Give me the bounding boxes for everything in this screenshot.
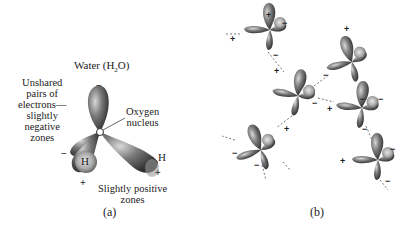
svg-text:−: −: [360, 94, 365, 104]
minus-top: −: [96, 80, 102, 91]
svg-text:−: −: [323, 70, 328, 80]
unshared-pairs-label: Unshared pairs of electrons— slightly ne…: [18, 77, 66, 143]
svg-text:−: −: [273, 50, 278, 60]
water-network-b: +−+ −+− +−+ −−− +−− +−−: [222, 3, 395, 190]
hydrogen-label-left: H: [81, 156, 89, 167]
oxygen-pointer-line: [103, 118, 125, 130]
oxygen-nucleus-label: Oxygen nucleus: [126, 106, 159, 128]
unshared-lobe-top: [88, 86, 109, 132]
svg-text:+: +: [327, 104, 332, 114]
svg-text:+: +: [230, 34, 235, 44]
svg-text:−: −: [282, 18, 287, 28]
slightly-positive-label: Slightly positive zones: [98, 183, 167, 205]
svg-text:−: −: [312, 98, 317, 108]
svg-text:−: −: [390, 144, 395, 154]
caption-a: (a): [103, 205, 116, 220]
plus-left: +: [80, 177, 86, 188]
svg-text:+: +: [284, 124, 289, 134]
svg-text:−: −: [254, 160, 259, 170]
hydrogen-label-right: H: [158, 152, 166, 163]
svg-text:+: +: [274, 66, 279, 76]
water-title: Water (H2O): [74, 60, 129, 76]
plus-right: +: [155, 167, 161, 178]
svg-text:−: −: [385, 176, 390, 186]
svg-text:−: −: [362, 124, 367, 134]
svg-text:+: +: [340, 156, 345, 166]
minus-left: −: [61, 148, 67, 159]
caption-b: (b): [310, 205, 324, 220]
svg-text:−: −: [232, 148, 237, 158]
svg-text:+: +: [266, 10, 271, 20]
svg-text:−: −: [378, 94, 383, 104]
svg-text:+: +: [344, 24, 349, 34]
oxygen-nucleus: [97, 129, 104, 136]
